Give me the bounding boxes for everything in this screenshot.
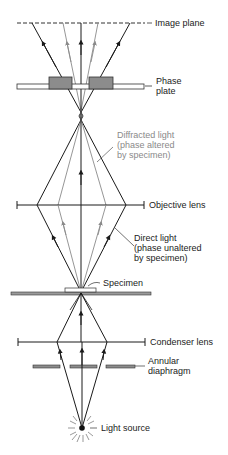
annular-diaphragm <box>33 365 145 368</box>
label-phase-plate: Phase plate <box>156 76 182 96</box>
label-annular-diaphragm: Annular diaphragm <box>148 356 191 376</box>
label-specimen: Specimen <box>103 278 143 288</box>
phase-contrast-diagram <box>0 0 228 455</box>
label-light-source: Light source <box>101 423 150 433</box>
label-diffracted-light: Diffracted light (phase altered by speci… <box>117 130 175 160</box>
rays-objective-to-focus <box>37 116 126 205</box>
label-condenser-lens: Condenser lens <box>150 337 213 347</box>
rays-to-image-plane <box>32 23 130 116</box>
rays-source-to-condenser <box>57 342 107 428</box>
phase-plate <box>17 77 152 89</box>
rays-condenser-to-specimen <box>57 293 107 342</box>
label-direct-light: Direct light (phase unaltered by specime… <box>134 233 202 263</box>
label-objective-lens: Objective lens <box>149 200 206 210</box>
label-image-plane: Image plane <box>155 18 205 28</box>
